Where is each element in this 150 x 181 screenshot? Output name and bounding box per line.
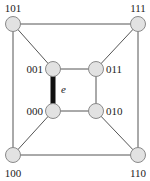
node-110: [131, 148, 146, 163]
node-101: [6, 17, 21, 32]
node-010: [89, 104, 104, 119]
node-100: [6, 148, 21, 163]
node-011: [89, 62, 104, 77]
edge-label: e: [61, 83, 66, 95]
edges-group: [13, 24, 138, 155]
node-label-011: 011: [106, 63, 122, 75]
edge-100-000: [13, 111, 53, 155]
node-001: [46, 62, 61, 77]
node-label-000: 000: [27, 105, 44, 117]
node-label-010: 010: [106, 105, 123, 117]
edge-110-010: [96, 111, 138, 155]
node-label-001: 001: [27, 63, 44, 75]
node-label-101: 101: [5, 2, 22, 14]
node-label-110: 110: [130, 167, 147, 179]
hypercube-diagram: e101111001011000010100110: [0, 0, 150, 181]
node-111: [131, 17, 146, 32]
labels-group: e101111001011000010100110: [5, 2, 147, 179]
node-000: [46, 104, 61, 119]
node-label-100: 100: [5, 167, 22, 179]
node-label-111: 111: [130, 2, 146, 14]
